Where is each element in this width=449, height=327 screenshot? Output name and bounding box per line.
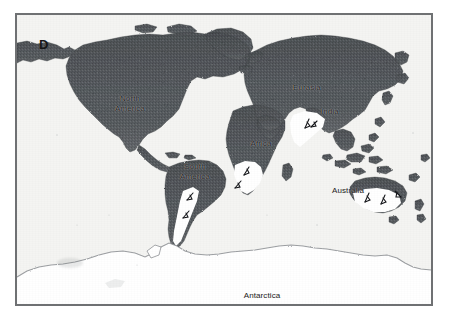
panel-letter: D [39, 37, 49, 52]
world-map-graphic [17, 15, 431, 304]
map-frame: D North America South America Eurasia In… [15, 13, 433, 306]
figure-panel-d: D North America South America Eurasia In… [0, 0, 449, 327]
